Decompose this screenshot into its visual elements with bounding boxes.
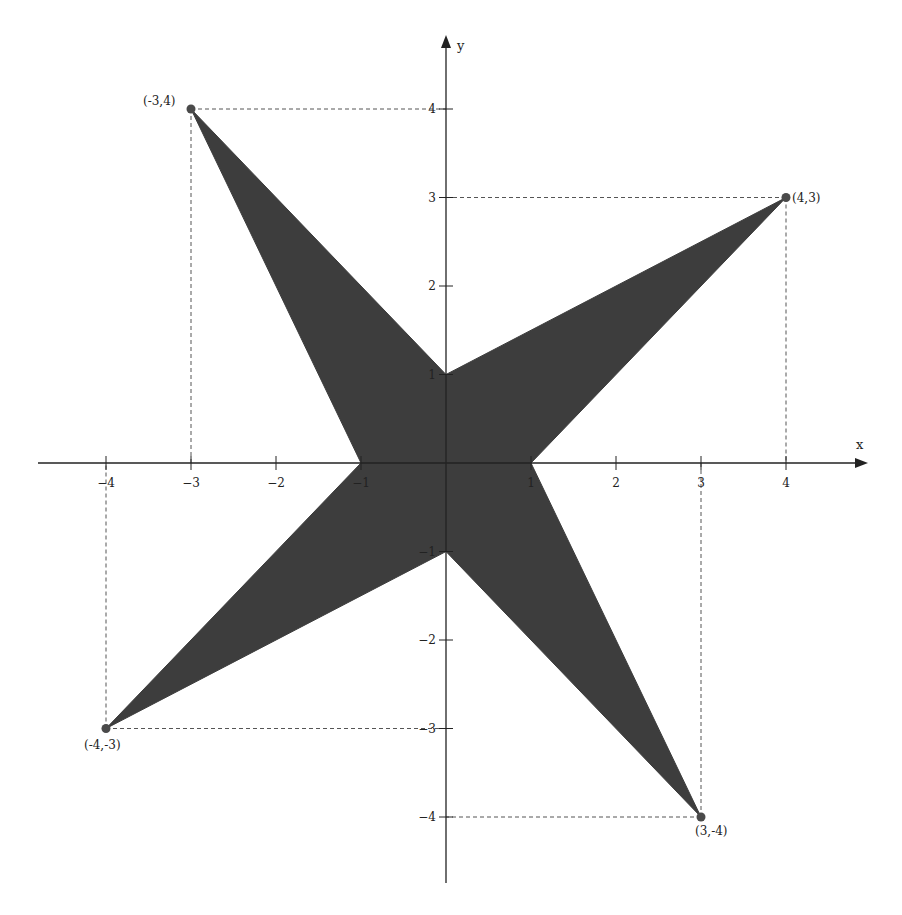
star-polygon-plot: xy −4−3−2−112344321−1−2−3−4 (-3,4)(4,3)(… [0,0,902,915]
x-tick-label: −4 [97,476,115,490]
y-axis-label: y [456,38,465,53]
y-tick-label: −3 [418,722,436,736]
vertex-point-label: (3,-4) [695,824,728,838]
y-tick-label: 3 [428,191,436,205]
vertex-point-label: (4,3) [792,191,820,205]
coordinate-plane-figure: xy −4−3−2−112344321−1−2−3−4 (-3,4)(4,3)(… [0,0,902,915]
x-tick-label: 1 [527,476,535,490]
vertex-point-label: (-4,-3) [84,738,121,752]
y-tick-label: 1 [428,368,436,382]
vertex-point-marker [782,193,791,202]
y-tick-label: −4 [418,810,436,824]
x-axis-arrow-icon [855,458,868,468]
x-tick-label: 3 [697,476,705,490]
vertex-point-label: (-3,4) [143,94,176,108]
x-tick-label: −1 [352,476,370,490]
x-axis-label: x [856,437,864,452]
x-tick-label: 2 [612,476,620,490]
y-axis-arrow-icon [441,35,451,48]
x-tick-label: −3 [182,476,200,490]
y-tick-label: 2 [428,279,436,293]
y-tick-label: −1 [418,545,436,559]
vertex-point-marker [102,724,111,733]
x-tick-label: 4 [782,476,790,490]
vertex-point-marker [697,813,706,822]
vertex-point-marker [187,105,196,114]
y-tick-label: −2 [418,633,436,647]
y-tick-label: 4 [428,102,436,116]
x-tick-label: −2 [267,476,285,490]
